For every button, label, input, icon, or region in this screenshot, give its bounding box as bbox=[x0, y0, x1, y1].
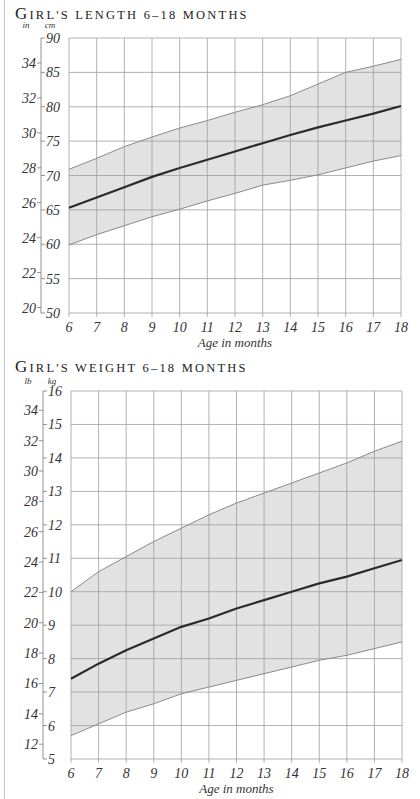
y-tick-label-primary: 9 bbox=[48, 618, 55, 633]
y-tick-label-secondary: 26 bbox=[24, 525, 38, 540]
y-tick-label-primary: 16 bbox=[48, 384, 62, 399]
x-tick-label: 9 bbox=[150, 766, 157, 781]
y-tick-label-secondary: 12 bbox=[24, 737, 38, 752]
y-tick-label-primary: 80 bbox=[46, 100, 60, 115]
x-tick-label: 13 bbox=[257, 766, 271, 781]
x-tick-label: 17 bbox=[367, 766, 382, 781]
y-tick-label-secondary: 34 bbox=[23, 403, 38, 418]
x-tick-label: 9 bbox=[149, 320, 156, 335]
y-tick-label-primary: 7 bbox=[48, 685, 56, 700]
y-tick-label-secondary: 20 bbox=[24, 616, 38, 631]
y-axis bbox=[39, 391, 47, 759]
y-unit-secondary: lb bbox=[24, 376, 32, 386]
y-tick-label-secondary: 16 bbox=[24, 676, 38, 691]
x-tick-label: 13 bbox=[256, 320, 270, 335]
y-tick-label-primary: 70 bbox=[46, 169, 60, 184]
y-tick-label-secondary: 22 bbox=[22, 266, 36, 281]
x-tick-label: 7 bbox=[93, 320, 101, 335]
weight-chart: 5678910111213141516121416182022242628303… bbox=[0, 359, 420, 799]
x-axis-label: Age in months bbox=[198, 781, 273, 796]
x-tick-label: 14 bbox=[285, 766, 299, 781]
y-tick-label-primary: 14 bbox=[48, 451, 62, 466]
x-tick-label: 10 bbox=[174, 766, 188, 781]
x-tick-label: 7 bbox=[95, 766, 103, 781]
y-tick-label-primary: 55 bbox=[46, 272, 60, 287]
y-tick-label-secondary: 32 bbox=[23, 434, 38, 449]
x-tick-label: 6 bbox=[68, 766, 75, 781]
y-tick-label-primary: 8 bbox=[48, 652, 55, 667]
x-tick-label: 18 bbox=[394, 320, 408, 335]
y-unit-secondary: in bbox=[22, 20, 30, 30]
y-tick-label-secondary: 28 bbox=[24, 494, 38, 509]
y-unit-primary: kg bbox=[48, 376, 57, 386]
y-tick-label-secondary: 30 bbox=[23, 464, 38, 479]
x-tick-label: 6 bbox=[66, 320, 73, 335]
x-tick-label: 12 bbox=[228, 320, 242, 335]
y-tick-label-primary: 90 bbox=[46, 31, 60, 46]
x-tick-label: 14 bbox=[283, 320, 297, 335]
y-tick-label-primary: 5 bbox=[48, 752, 55, 767]
y-tick-label-primary: 12 bbox=[48, 518, 62, 533]
x-tick-label: 10 bbox=[173, 320, 187, 335]
x-tick-label: 8 bbox=[123, 766, 130, 781]
y-tick-label-secondary: 14 bbox=[24, 707, 38, 722]
y-tick-label-secondary: 24 bbox=[22, 231, 36, 246]
y-tick-label-primary: 50 bbox=[46, 306, 60, 321]
x-tick-label: 15 bbox=[312, 766, 326, 781]
y-tick-label-secondary: 30 bbox=[21, 126, 36, 141]
y-tick-label-primary: 60 bbox=[46, 237, 60, 252]
y-tick-label-primary: 15 bbox=[48, 417, 62, 432]
x-tick-label: 15 bbox=[311, 320, 325, 335]
x-tick-label: 17 bbox=[366, 320, 381, 335]
x-axis-label: Age in months bbox=[197, 335, 272, 350]
y-tick-label-primary: 11 bbox=[48, 551, 61, 566]
x-tick-label: 12 bbox=[230, 766, 244, 781]
x-tick-label: 11 bbox=[201, 320, 214, 335]
x-tick-label: 11 bbox=[202, 766, 215, 781]
y-tick-label-secondary: 32 bbox=[21, 91, 36, 106]
y-tick-label-secondary: 28 bbox=[22, 161, 36, 176]
y-tick-label-primary: 65 bbox=[46, 203, 60, 218]
y-tick-label-primary: 13 bbox=[48, 484, 62, 499]
x-tick-label: 8 bbox=[121, 320, 128, 335]
y-tick-label-primary: 10 bbox=[48, 585, 62, 600]
y-tick-label-secondary: 20 bbox=[22, 301, 36, 316]
y-tick-label-primary: 6 bbox=[48, 719, 55, 734]
y-tick-label-primary: 85 bbox=[46, 65, 60, 80]
y-tick-label-primary: 75 bbox=[46, 134, 60, 149]
y-tick-label-secondary: 34 bbox=[21, 56, 36, 71]
x-tick-label: 18 bbox=[395, 766, 409, 781]
x-tick-label: 16 bbox=[339, 320, 353, 335]
y-tick-label-secondary: 18 bbox=[24, 646, 38, 661]
y-axis bbox=[37, 38, 45, 313]
y-tick-label-secondary: 22 bbox=[24, 585, 38, 600]
y-unit-primary: cm bbox=[45, 20, 56, 30]
y-tick-label-secondary: 26 bbox=[22, 196, 36, 211]
length-chart: 5055606570758085902022242628303234incm67… bbox=[0, 0, 420, 350]
y-tick-label-secondary: 24 bbox=[24, 555, 38, 570]
x-tick-label: 16 bbox=[340, 766, 354, 781]
